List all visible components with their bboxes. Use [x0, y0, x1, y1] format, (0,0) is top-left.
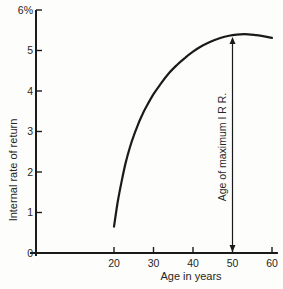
- y-tick-label: 4: [7, 85, 33, 98]
- arrowhead-down-icon: [230, 245, 236, 252]
- y-tick-label: 5: [7, 44, 33, 57]
- chart-canvas: [0, 0, 283, 289]
- y-tick-label: 0: [7, 247, 33, 260]
- x-tick-label: 50: [218, 257, 248, 270]
- y-tick-label: 6%: [7, 4, 33, 17]
- irr-curve: [114, 34, 272, 226]
- max-irr-annotation-label: Age of maximum I R R.: [216, 93, 228, 202]
- x-axis-label: Age in years: [160, 270, 221, 282]
- x-tick-label: 60: [257, 257, 283, 270]
- x-tick-label: 20: [99, 257, 129, 270]
- arrowhead-up-icon: [230, 37, 236, 44]
- irr-vs-age-chart: 0123456%2030405060 Internal rate of retu…: [0, 0, 283, 289]
- x-tick-label: 40: [178, 257, 208, 270]
- y-axis-label: Internal rate of return: [7, 119, 19, 222]
- x-tick-label: 30: [139, 257, 169, 270]
